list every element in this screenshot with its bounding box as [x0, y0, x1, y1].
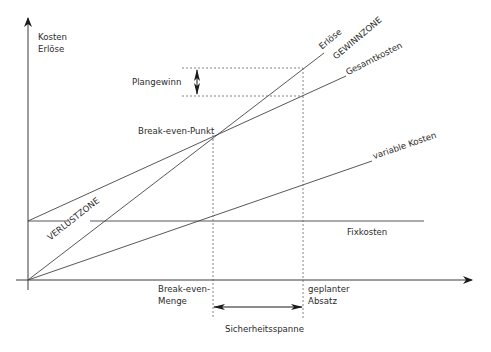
break-even-point-label: Break-even-Punkt — [138, 126, 214, 137]
total-costs-line — [28, 76, 346, 221]
y-axis-label-erloese: Erlöse — [38, 44, 64, 55]
safety-margin-label: Sicherheitsspanne — [225, 324, 304, 335]
break-even-quantity-label-1: Break-even- — [158, 284, 210, 295]
fixed-costs-label: Fixkosten — [347, 227, 387, 238]
y-axis-label-kosten: Kosten — [38, 32, 67, 43]
planned-sales-label-2: Absatz — [308, 296, 337, 307]
break-even-quantity-label-2: Menge — [158, 296, 187, 307]
diagram-canvas — [0, 0, 491, 352]
planned-sales-label-1: geplanter — [308, 284, 350, 295]
break-even-diagram: Kosten Erlöse Plangewinn Break-even-Punk… — [0, 0, 491, 352]
planned-profit-label: Plangewinn — [132, 77, 181, 88]
